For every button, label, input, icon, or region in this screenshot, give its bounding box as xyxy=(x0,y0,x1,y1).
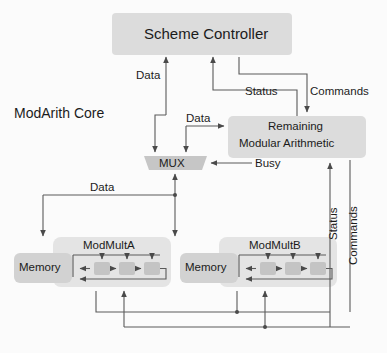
junction-commands-bottom xyxy=(263,325,267,329)
scheme-controller-label: Scheme Controller xyxy=(144,26,268,41)
modmult-a-cell-3 xyxy=(144,262,160,275)
edge-label-busy: Busy xyxy=(255,158,281,170)
modmult-a-cell-2 xyxy=(119,262,135,275)
block-shapes xyxy=(14,13,366,287)
edge-data-to-controller-stub xyxy=(155,115,166,152)
modmult-b-cell-2 xyxy=(285,262,301,275)
edge-label-status-vertical: Status xyxy=(328,207,340,240)
modmult-a-label: ModMultA xyxy=(83,240,135,252)
modmult-b-cell-1 xyxy=(260,262,276,275)
edge-label-commands-vertical: Commands xyxy=(348,206,360,265)
memory-a-label: Memory xyxy=(19,262,61,274)
remaining-label-line1: Remaining xyxy=(268,121,323,133)
bottom-status-route xyxy=(96,291,330,312)
junction-status-bottom xyxy=(235,310,239,314)
diagram-canvas xyxy=(0,0,387,353)
mux-label: MUX xyxy=(159,158,185,170)
edge-label-data-to-controller: Data xyxy=(136,70,160,82)
junction-databus xyxy=(173,193,177,197)
edge-label-data-bus: Data xyxy=(90,182,114,194)
modarith-core-diagram: Scheme Controller ModArith Core Remainin… xyxy=(0,0,387,353)
edge-label-status: Status xyxy=(245,86,278,98)
modmult-b-label: ModMultB xyxy=(249,240,301,252)
edge-label-commands: Commands xyxy=(310,86,369,98)
remaining-label-line2: Modular Arithmetic xyxy=(239,138,334,150)
modmult-b-cell-3 xyxy=(310,262,326,275)
core-label: ModArith Core xyxy=(14,106,104,120)
modmult-a-cell-1 xyxy=(94,262,110,275)
edge-label-data-to-remaining: Data xyxy=(186,113,210,125)
memory-b-label: Memory xyxy=(185,262,227,274)
